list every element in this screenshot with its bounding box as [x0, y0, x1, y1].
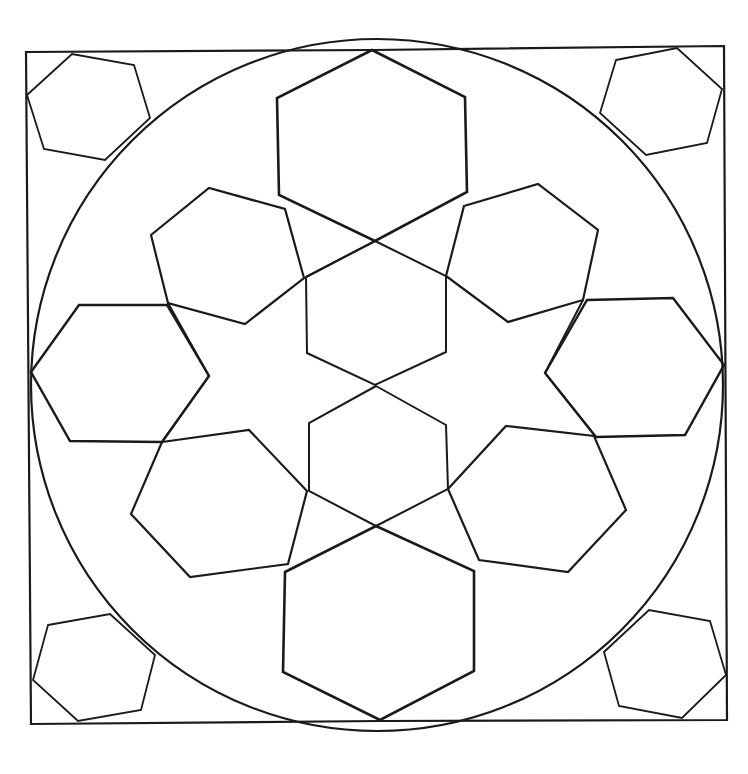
hexagon-upper-right	[446, 184, 598, 322]
center-hexagons	[306, 241, 448, 526]
coloring-page-canvas: Geometric hexagon rosette coloring page	[0, 0, 748, 774]
hexagon-bottom-right	[604, 610, 726, 718]
large-hexagons	[31, 50, 724, 720]
line-top-hex-to-ring-left	[306, 241, 375, 277]
connector-lines	[162, 241, 596, 442]
line-ring-ur-to-right	[545, 300, 583, 373]
hexagon-top-left	[27, 54, 150, 160]
hexagon-top-right	[600, 48, 722, 155]
hexagon-center-upper	[306, 241, 446, 385]
hexagon-lower-left	[131, 430, 307, 577]
hexagon-bottom	[283, 526, 474, 720]
line-left-to-center	[162, 376, 209, 442]
hexagon-center-lower	[309, 386, 448, 526]
hexagon-upper-left	[151, 188, 304, 324]
hexagon-top	[277, 50, 467, 241]
hexagon-right	[545, 298, 724, 437]
hexagon-left	[31, 305, 209, 442]
line-right-to-ring-lr	[545, 373, 596, 437]
hexagon-bottom-left	[33, 614, 155, 721]
line-ring-ul-to-left	[168, 303, 209, 376]
geometric-pattern-drawing	[0, 0, 748, 774]
hexagon-lower-right	[448, 426, 626, 572]
